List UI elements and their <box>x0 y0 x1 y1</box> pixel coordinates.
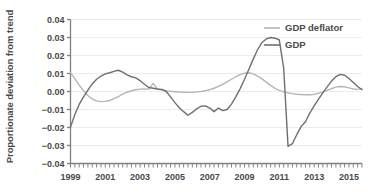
x-axis-tick-label: 2001 <box>95 172 115 182</box>
chart-legend: GDP deflatorGDP <box>264 22 343 50</box>
series-line-gdp-deflator <box>71 73 363 102</box>
x-axis-tick-label: 2003 <box>130 172 150 182</box>
x-axis-tick-label: 2005 <box>165 172 185 182</box>
y-axis-tick-label: 0.01 <box>47 69 65 79</box>
x-axis-tick-label: 1999 <box>60 172 80 182</box>
y-axis-tick-label: −0.04 <box>42 159 65 169</box>
x-axis-tick-labels-group: 199920012003200520072009201120132015 <box>60 172 358 182</box>
legend-label: GDP <box>285 39 306 50</box>
x-axis-tick-label: 2009 <box>235 172 255 182</box>
x-axis-tick-label: 2013 <box>304 172 324 182</box>
chart-container: Proportionate deviation from trend 0.040… <box>0 0 371 194</box>
y-axis-tick-label: −0.01 <box>42 105 65 115</box>
y-axis-tick-label: 0.03 <box>47 33 65 43</box>
x-axis-tick-label: 2007 <box>200 172 220 182</box>
chart-plot: 0.040.030.020.010.00−0.01−0.02−0.03−0.04… <box>0 0 371 194</box>
x-axis-tick-label: 2011 <box>270 172 290 182</box>
y-axis-tick-label: 0.02 <box>47 51 65 61</box>
y-axis-tick-label: 0.04 <box>47 15 65 25</box>
x-axis-tick-label: 2015 <box>339 172 359 182</box>
y-axis-tick-label: −0.03 <box>42 141 65 151</box>
y-axis-tick-label: 0.00 <box>47 87 65 97</box>
y-axis-tick-labels-group: 0.040.030.020.010.00−0.01−0.02−0.03−0.04 <box>42 15 65 169</box>
gridlines-group <box>71 20 363 164</box>
legend-label: GDP deflator <box>285 22 343 33</box>
y-axis-tick-label: −0.02 <box>42 123 65 133</box>
